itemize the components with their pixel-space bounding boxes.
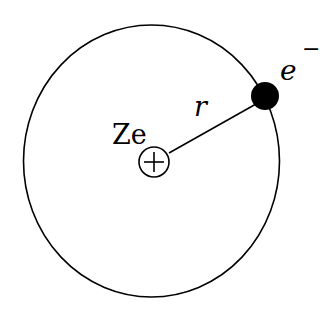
electron-dot: [251, 82, 279, 110]
radius-label: r: [194, 91, 209, 122]
nucleus-icon: [139, 147, 169, 177]
nucleus-charge-label: Ze: [112, 119, 147, 150]
radius-line: [169, 104, 256, 153]
electron-charge-superscript: −: [302, 36, 320, 61]
electron-label: e: [280, 54, 297, 87]
bohr-atom-diagram: Ze r e −: [0, 0, 327, 315]
